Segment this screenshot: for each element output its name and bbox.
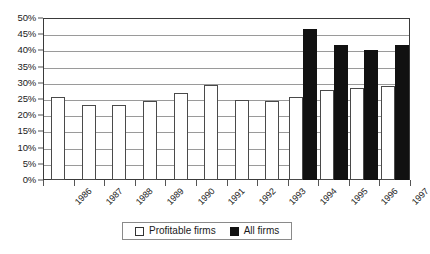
x-axis-tick-label: 1987 [104,186,125,207]
bar-1988-profitable-firms [112,105,126,180]
bar-1987-profitable-firms [82,105,96,180]
x-axis-tick-label: 1986 [73,186,94,207]
x-axis-tick-label: 1993 [287,186,308,207]
x-axis-tick-label: 1989 [165,186,186,207]
x-axis-tick-label: 1990 [195,186,216,207]
y-axis-tick-label: 50% [18,13,36,23]
x-axis-tick-label: 1991 [226,186,247,207]
x-axis-tick-label: 1994 [318,186,339,207]
legend-swatch-filled-square-icon [230,227,239,236]
bar-group [43,18,74,180]
bar-1990-profitable-firms [174,93,188,180]
bar-group [165,18,196,180]
bar-group [196,18,227,180]
bar-1995-profitable-firms [320,90,334,180]
x-axis-tick-label: 1995 [348,186,369,207]
y-axis-tick-label: 30% [18,78,36,88]
y-axis-tick-label: 0% [23,175,36,185]
bar-1992-profitable-firms [235,100,249,180]
legend-label-profitable-firms: Profitable firms [149,226,216,236]
bar-group [288,18,319,180]
bar-1994-all-firms [303,29,317,180]
chart-legend: Profitable firms All firms [122,222,292,240]
y-axis-tick-label: 5% [23,159,36,169]
bar-group [104,18,135,180]
x-axis-tick-label: 1992 [257,186,278,207]
bar-1995-all-firms [334,45,348,180]
bars-layer [43,18,410,180]
x-axis-tick-label: 1997 [409,186,430,207]
bar-1997-all-firms [395,45,409,180]
y-axis-tick-label: 25% [18,94,36,104]
bar-group [227,18,258,180]
legend-swatch-hollow-square-icon [135,227,144,236]
y-axis-tick-label: 20% [18,110,36,120]
y-axis-tick-label: 40% [18,46,36,56]
bar-group [318,18,349,180]
x-axis-tick-label: 1988 [134,186,155,207]
legend-item-profitable-firms: Profitable firms [135,226,216,236]
y-axis-tick-label: 15% [18,127,36,137]
bar-1989-profitable-firms [143,101,157,180]
bar-group [349,18,380,180]
bar-group [135,18,166,180]
x-axis-tick-label: 1996 [379,186,400,207]
bar-1994-profitable-firms [289,97,303,180]
bar-group [74,18,105,180]
bar-group [379,18,410,180]
x-axis-tick-mark [410,180,411,186]
legend-label-all-firms: All firms [244,226,280,236]
y-axis-tick-label: 35% [18,62,36,72]
bar-1993-profitable-firms [265,101,279,180]
bar-1996-profitable-firms [350,88,364,180]
bar-1991-profitable-firms [204,85,218,180]
bar-1986-profitable-firms [51,97,65,180]
bar-1997-profitable-firms [381,86,395,180]
legend-item-all-firms: All firms [230,226,280,236]
bar-1996-all-firms [364,50,378,180]
y-axis-tick-label: 10% [18,143,36,153]
y-axis-tick-label: 45% [18,29,36,39]
y-axis: 0%5%10%15%20%25%30%35%40%45%50% [0,18,40,180]
bar-group [257,18,288,180]
